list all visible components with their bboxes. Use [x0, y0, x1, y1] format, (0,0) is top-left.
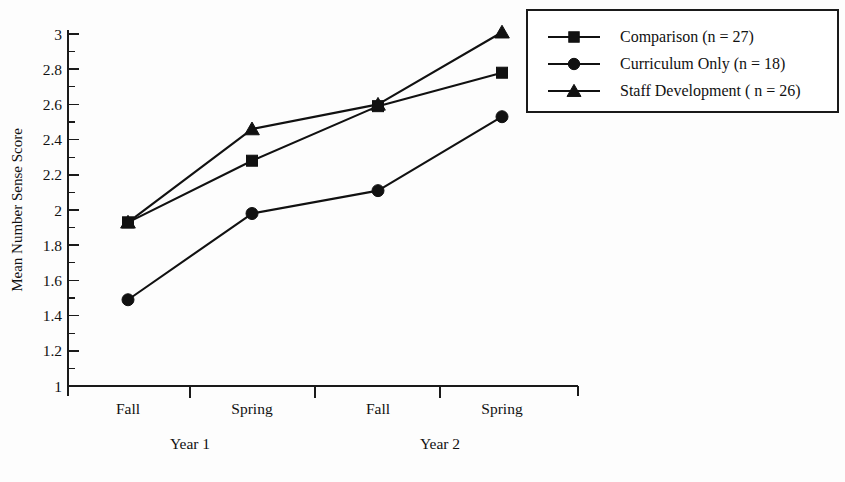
legend-label: Staff Development ( n = 26) [620, 82, 801, 100]
x-axis-label: Spring [481, 400, 523, 417]
marker-circle [568, 58, 579, 69]
marker-triangle [495, 25, 510, 38]
marker-circle [496, 111, 508, 123]
marker-square [497, 67, 508, 78]
y-tick-label: 1.2 [43, 342, 62, 359]
x-axis-group-labels: Year 1Year 2 [170, 435, 460, 452]
data-series-layer [121, 25, 510, 306]
y-tick-label: 2.6 [43, 96, 63, 113]
x-axis-group-label: Year 2 [420, 435, 460, 452]
y-tick-label: 1.6 [43, 272, 63, 289]
y-tick-label: 1 [54, 378, 62, 395]
marker-circle [246, 208, 258, 220]
x-axis-label: Fall [366, 400, 390, 417]
x-axis-group-label: Year 1 [170, 435, 210, 452]
marker-square [569, 32, 579, 42]
y-tick-label: 2 [54, 202, 62, 219]
line-chart: Mean Number Sense Score 32.82.62.42.221.… [0, 0, 845, 482]
series-circle [122, 111, 508, 306]
y-tick-label: 3 [54, 26, 62, 43]
y-tick-label: 2.2 [43, 166, 62, 183]
marker-square [247, 155, 258, 166]
marker-circle [372, 185, 384, 197]
y-tick-label: 2.8 [43, 61, 63, 78]
legend-label: Comparison (n = 27) [620, 28, 754, 46]
series-line [128, 117, 502, 300]
y-tick-label: 1.4 [43, 307, 63, 324]
chart-container: Mean Number Sense Score 32.82.62.42.221.… [0, 0, 845, 482]
y-tick-label: 1.8 [43, 237, 63, 254]
marker-circle [122, 294, 134, 306]
chart-legend: Comparison (n = 27)Curriculum Only (n = … [527, 10, 838, 112]
y-tick-label: 2.4 [43, 131, 63, 148]
y-axis-title: Mean Number Sense Score [9, 128, 25, 292]
x-axis-label: Spring [231, 400, 273, 417]
y-axis-ticks: 32.82.62.42.221.81.61.41.21 [43, 26, 79, 395]
series-line [128, 73, 502, 223]
x-axis-labels: FallSpringFallSpring [116, 400, 523, 417]
x-axis-label: Fall [116, 400, 140, 417]
legend-label: Curriculum Only (n = 18) [620, 55, 785, 73]
x-axis-ticks [68, 386, 578, 398]
